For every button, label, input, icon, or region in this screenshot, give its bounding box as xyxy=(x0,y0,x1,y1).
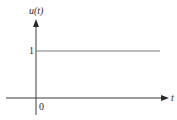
unit-step-plot xyxy=(0,0,177,120)
level-one-tick-label: 1 xyxy=(29,46,34,56)
origin-label: 0 xyxy=(39,102,44,112)
y-axis-label: u(t) xyxy=(29,6,43,16)
x-axis-arrow-icon xyxy=(161,95,169,101)
y-axis-arrow-icon xyxy=(33,19,39,27)
x-axis-label: t xyxy=(171,93,174,103)
